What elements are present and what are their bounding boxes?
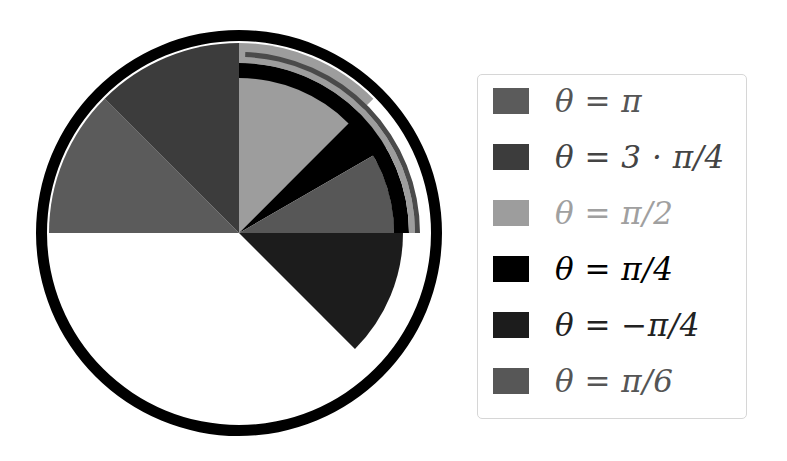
legend-swatch [493, 200, 529, 226]
legend-label: θ = π/4 [555, 251, 673, 287]
legend-item-theta-pi-2: θ = π/2 [493, 193, 673, 233]
legend-item-theta-neg-pi-4: θ = −π/4 [493, 305, 700, 345]
legend-label: θ = −π/4 [555, 307, 700, 343]
legend-label: θ = π/6 [555, 363, 673, 399]
legend-label: θ = 3 · π/4 [555, 139, 725, 175]
legend-swatch [493, 88, 529, 114]
legend-label: θ = π/2 [555, 195, 673, 231]
legend-swatch [493, 144, 529, 170]
legend-label: θ = π [555, 83, 642, 119]
legend-item-theta-pi-6: θ = π/6 [493, 361, 673, 401]
legend-swatch [493, 368, 529, 394]
wedge [239, 233, 403, 349]
legend-item-theta-3pi-4: θ = 3 · π/4 [493, 137, 725, 177]
legend-swatch [493, 312, 529, 338]
legend-item-theta-pi: θ = π [493, 81, 642, 121]
legend-swatch [493, 256, 529, 282]
legend: θ = π θ = 3 · π/4 θ = π/2 θ = π/4 θ = −π… [477, 74, 747, 419]
legend-item-theta-pi-4: θ = π/4 [493, 249, 673, 289]
